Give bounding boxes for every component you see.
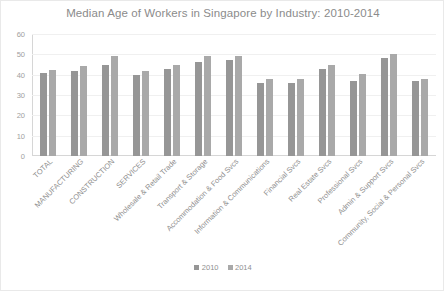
legend-swatch-icon bbox=[228, 265, 233, 270]
legend-entry[interactable]: 2010 bbox=[194, 263, 218, 272]
bar-2010[interactable] bbox=[288, 83, 295, 156]
x-axis: TOTALMANUFACTURINGCONSTRUCTIONSERVICESWh… bbox=[32, 157, 436, 257]
bar-2010[interactable] bbox=[102, 65, 109, 157]
bar-2014[interactable] bbox=[235, 56, 242, 156]
bar-group bbox=[250, 34, 281, 156]
bar-2010[interactable] bbox=[381, 58, 388, 156]
bar-2010[interactable] bbox=[164, 69, 171, 156]
y-axis-tick-label: 40 bbox=[17, 70, 25, 79]
bar-group bbox=[312, 34, 343, 156]
bar-2014[interactable] bbox=[390, 54, 397, 156]
bar-2014[interactable] bbox=[173, 65, 180, 157]
bar-2010[interactable] bbox=[319, 69, 326, 156]
y-axis-tick-label: 30 bbox=[17, 91, 25, 100]
bar-group bbox=[63, 34, 94, 156]
bar-group bbox=[218, 34, 249, 156]
y-axis-tick-label: 60 bbox=[17, 30, 25, 39]
legend-swatch-icon bbox=[194, 265, 199, 270]
y-axis-tick-label: 20 bbox=[17, 111, 25, 120]
bar-2014[interactable] bbox=[49, 70, 56, 156]
bar-2010[interactable] bbox=[257, 83, 264, 156]
bar-2014[interactable] bbox=[204, 56, 211, 156]
bar-group bbox=[343, 34, 374, 156]
bar-2014[interactable] bbox=[328, 65, 335, 157]
bar-2010[interactable] bbox=[412, 81, 419, 156]
x-axis-tick-label: TOTAL bbox=[31, 157, 54, 180]
bar-2014[interactable] bbox=[80, 66, 87, 156]
bar-group bbox=[156, 34, 187, 156]
bar-group bbox=[94, 34, 125, 156]
bar-group bbox=[125, 34, 156, 156]
bar-group bbox=[187, 34, 218, 156]
plot-area bbox=[32, 34, 436, 156]
legend-entry[interactable]: 2014 bbox=[228, 263, 252, 272]
bar-group bbox=[374, 34, 405, 156]
bars-layer bbox=[32, 34, 436, 156]
bar-group bbox=[281, 34, 312, 156]
bar-2014[interactable] bbox=[359, 74, 366, 156]
bar-2014[interactable] bbox=[421, 79, 428, 156]
bar-2010[interactable] bbox=[195, 62, 202, 156]
bar-2014[interactable] bbox=[111, 56, 118, 156]
bar-group bbox=[32, 34, 63, 156]
bar-2010[interactable] bbox=[40, 73, 47, 156]
chart-legend: 20102014 bbox=[1, 263, 444, 272]
y-axis: 6050403020100 bbox=[1, 34, 29, 156]
bar-group bbox=[405, 34, 436, 156]
bar-2014[interactable] bbox=[297, 79, 304, 156]
legend-label: 2010 bbox=[202, 263, 219, 272]
chart-title: Median Age of Workers in Singapore by In… bbox=[1, 7, 444, 19]
bar-2010[interactable] bbox=[71, 71, 78, 156]
chart-container: Median Age of Workers in Singapore by In… bbox=[0, 0, 444, 291]
bar-2010[interactable] bbox=[226, 60, 233, 156]
y-axis-tick-label: 50 bbox=[17, 50, 25, 59]
legend-label: 2014 bbox=[235, 263, 252, 272]
y-axis-tick-label: 0 bbox=[21, 152, 25, 161]
y-axis-tick-label: 10 bbox=[17, 131, 25, 140]
bar-2010[interactable] bbox=[350, 81, 357, 156]
x-axis-tick-label: Admin & Support Svcs bbox=[336, 157, 395, 216]
bar-2014[interactable] bbox=[142, 71, 149, 156]
bar-2010[interactable] bbox=[133, 75, 140, 156]
bar-2014[interactable] bbox=[266, 79, 273, 156]
